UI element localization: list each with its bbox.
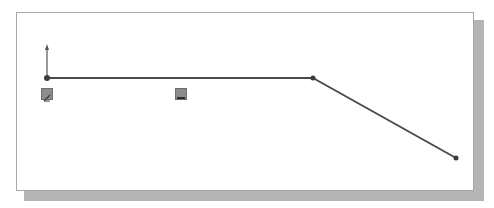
- start-point[interactable]: [44, 75, 50, 81]
- origin-axis-icon: [45, 44, 57, 78]
- horizontal-icon: [176, 93, 186, 103]
- horizontal-relation[interactable]: [175, 88, 187, 100]
- sloped-line[interactable]: [313, 78, 456, 158]
- sketch-canvas[interactable]: [0, 0, 494, 208]
- corner-point[interactable]: [311, 76, 316, 81]
- coincident-relation[interactable]: [41, 88, 53, 100]
- end-point[interactable]: [454, 156, 459, 161]
- coincident-icon: [42, 93, 52, 103]
